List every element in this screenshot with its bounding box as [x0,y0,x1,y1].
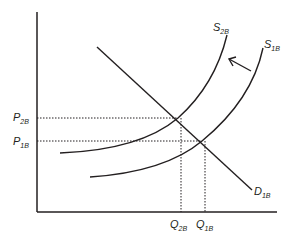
q1b-label: Q1B [196,218,213,232]
supply-curve-s1b [90,48,263,177]
supply-curve-s2b [60,35,227,153]
shift-arrow-icon [229,57,251,71]
supply-demand-diagram: S2B S1B D1B P2B P1B Q2B Q1B [0,0,292,240]
q2b-label: Q2B [170,218,187,232]
p2b-label: P2B [13,111,29,125]
s2b-label: S2B [213,21,229,35]
d1b-label: D1B [254,185,271,199]
s1b-label: S1B [264,38,280,52]
demand-curve-d1b [97,47,252,190]
p1b-label: P1B [13,135,29,149]
